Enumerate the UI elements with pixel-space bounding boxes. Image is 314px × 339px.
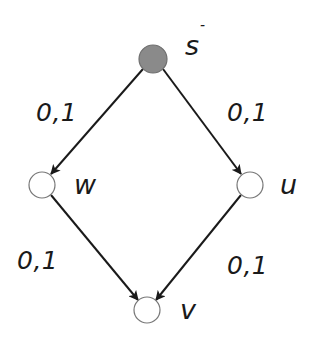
graph-diagram: 0,1 0,1 0,1 0,1 s - w u v [0, 0, 314, 339]
edge-label-s-w: 0,1 [36, 98, 77, 127]
edge-w-v [51, 195, 138, 300]
edge-label-s-u: 0,1 [227, 98, 268, 127]
node-w [29, 172, 55, 198]
node-label-v: v [180, 294, 197, 325]
node-label-s-superscript: - [200, 17, 205, 33]
nodes [29, 45, 263, 323]
node-label-u: u [280, 169, 297, 200]
edge-u-v [156, 195, 241, 300]
node-s [139, 45, 167, 73]
edge-label-u-v: 0,1 [227, 251, 268, 280]
node-u [237, 172, 263, 198]
node-label-w: w [74, 169, 97, 200]
node-label-s: s [185, 30, 199, 61]
edge-label-w-v: 0,1 [17, 246, 58, 275]
node-v [134, 297, 160, 323]
